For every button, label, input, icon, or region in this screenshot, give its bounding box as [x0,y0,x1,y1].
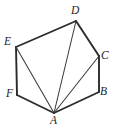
figure-canvas [0,0,116,130]
diagonal-layer [16,21,99,113]
edge-ef [16,47,17,95]
edge-de [16,21,76,47]
vertex-label-d: D [71,5,79,17]
vertex-label-f: F [6,88,13,100]
edge-ab [54,92,99,113]
vertex-label-a: A [50,115,57,127]
vertex-label-b: B [100,86,107,98]
vertex-label-e: E [4,36,11,48]
vertex-label-c: C [101,50,109,62]
geometry-figure: ABCDEF [0,0,116,130]
edge-cd [76,21,99,56]
